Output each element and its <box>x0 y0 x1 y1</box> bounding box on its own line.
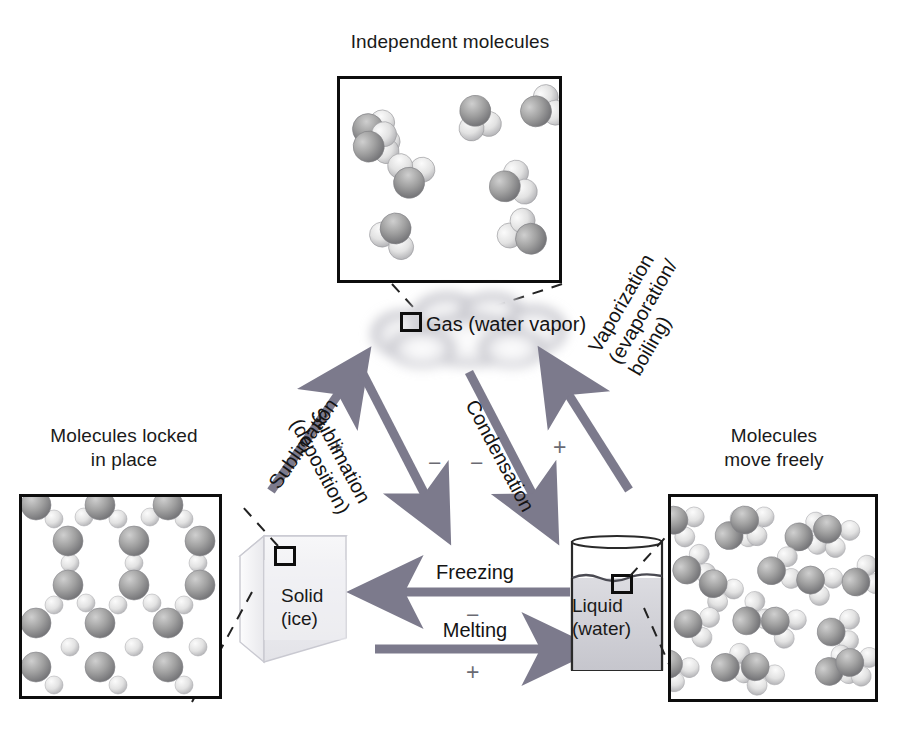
arrow-vaporization <box>553 370 629 490</box>
solid-molecules-panel <box>19 494 222 699</box>
solid-panel-caption: Molecules locked in place <box>18 424 230 472</box>
phase-change-diagram: Independent molecules <box>0 0 898 735</box>
sign-deposition: − <box>428 452 441 475</box>
label-melting: Melting <box>415 619 535 642</box>
sign-vaporization: + <box>553 436 566 459</box>
sign-condensation: − <box>470 452 483 475</box>
liquid-molecules-svg <box>671 497 875 699</box>
sign-melting: + <box>466 661 479 684</box>
label-freezing: Freezing <box>415 561 535 584</box>
arrow-deposition <box>362 372 438 520</box>
solid-lattice-svg <box>22 497 219 696</box>
liquid-panel-caption: Molecules move freely <box>668 424 880 472</box>
liquid-molecules-panel <box>668 494 878 702</box>
